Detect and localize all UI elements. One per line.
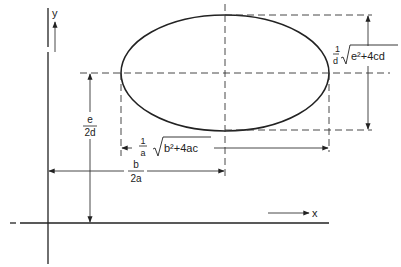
- svg-text:1: 1: [335, 44, 340, 54]
- vertical-offset-label: e 2d: [83, 114, 97, 138]
- y-axis-label: y: [52, 7, 58, 19]
- svg-text:b: b: [133, 159, 139, 170]
- svg-text:1: 1: [140, 136, 145, 146]
- svg-text:d: d: [333, 56, 338, 66]
- horizontal-width-label: 1 a b²+4ac: [139, 136, 211, 158]
- svg-text:2d: 2d: [84, 127, 95, 138]
- x-axis-label: x: [312, 207, 318, 219]
- ellipse-diagram: y x 1 d e²+4cd e 2d 1: [0, 0, 401, 267]
- svg-text:e²+4cd: e²+4cd: [351, 50, 385, 62]
- svg-text:2a: 2a: [130, 173, 142, 184]
- svg-text:e: e: [87, 114, 93, 125]
- horizontal-offset-label: b 2a: [128, 159, 144, 184]
- svg-text:a: a: [140, 148, 145, 158]
- svg-text:b²+4ac: b²+4ac: [164, 142, 198, 154]
- vertical-height-label: 1 d e²+4cd: [333, 44, 398, 66]
